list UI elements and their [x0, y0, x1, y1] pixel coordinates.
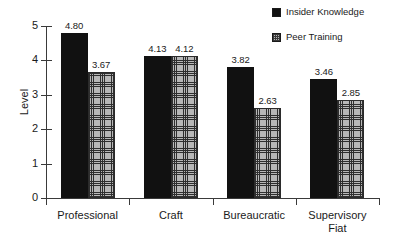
bar-value-label: 4.12: [168, 44, 201, 54]
x-axis-category-label: SupervisoryFiat: [286, 209, 389, 235]
bar-peer-training: [254, 108, 281, 198]
bar-insider-knowledge: [227, 67, 254, 198]
plot-area: 4.803.674.134.123.822.633.462.85: [46, 26, 379, 198]
y-axis-tick-label: 2: [22, 123, 38, 134]
bar-value-label: 3.46: [307, 67, 340, 77]
bar-chart: Insider Knowledge Peer Training Level 01…: [0, 0, 398, 249]
x-axis-tick: [296, 198, 297, 205]
x-axis-tick: [213, 198, 214, 205]
y-axis-tick-label: 1: [22, 158, 38, 169]
bar-peer-training: [171, 56, 198, 198]
bar-peer-training: [337, 100, 364, 198]
bar-insider-knowledge: [61, 33, 88, 198]
bar-value-label: 4.80: [58, 21, 91, 31]
bar-insider-knowledge: [144, 56, 171, 198]
x-axis-category-label-line: Fiat: [286, 222, 389, 235]
y-axis-tick-label: 3: [22, 89, 38, 100]
legend-swatch-solid-icon: [272, 8, 281, 17]
x-axis-tick: [379, 198, 380, 205]
x-axis-category-label-line: Supervisory: [286, 209, 389, 222]
bar-value-label: 3.82: [224, 55, 257, 65]
y-axis-tick-label: 0: [22, 192, 38, 203]
y-axis-tick-label: 4: [22, 54, 38, 65]
legend-item-insider-knowledge: Insider Knowledge: [272, 6, 398, 17]
x-axis-tick: [46, 198, 47, 205]
legend-label-insider-knowledge: Insider Knowledge: [286, 6, 364, 17]
bar-value-label: 2.63: [251, 96, 284, 106]
bar-value-label: 2.85: [334, 88, 367, 98]
bar-peer-training: [88, 72, 115, 198]
x-axis-tick: [129, 198, 130, 205]
bar-insider-knowledge: [310, 79, 337, 198]
bar-value-label: 3.67: [85, 60, 118, 70]
y-axis-tick-label: 5: [22, 20, 38, 31]
